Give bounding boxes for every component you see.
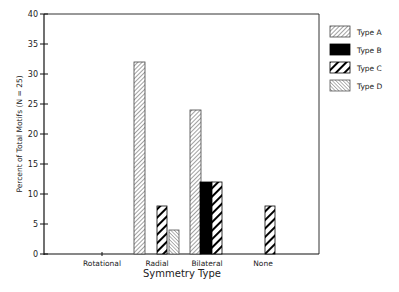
legend-swatch-solid-icon — [330, 44, 350, 55]
y-tick-label: 30 — [28, 70, 38, 79]
y-axis-title: Percent of Total Motifs (N = 25) — [15, 75, 24, 192]
y-tick-label: 40 — [28, 10, 38, 19]
legend-swatch-bold-stripes-icon — [330, 62, 350, 73]
y-tick-label: 5 — [33, 220, 38, 229]
bar-chart: 0 5 10 15 20 25 30 35 40 Percent of Tota… — [0, 0, 399, 292]
legend-item-type-a: Type A — [330, 26, 383, 37]
bars — [134, 62, 275, 254]
x-category-label: Bilateral — [191, 259, 222, 268]
legend-item-type-b: Type B — [330, 44, 382, 55]
y-tick-label: 10 — [28, 190, 38, 199]
bar-type-c-none — [265, 206, 275, 254]
bar-type-d-radial — [169, 230, 179, 254]
legend-item-type-c: Type C — [330, 62, 382, 73]
legend-swatch-reverse-hatch-icon — [330, 80, 350, 91]
bar-type-a-radial — [134, 62, 145, 254]
legend-item-type-d: Type D — [330, 80, 383, 91]
legend-swatch-fine-hatch-icon — [330, 26, 350, 37]
bar-type-b-bilateral — [200, 182, 212, 254]
y-ticks: 0 5 10 15 20 25 30 35 40 — [28, 10, 48, 259]
legend-label: Type C — [356, 64, 382, 73]
legend-label: Type D — [356, 82, 383, 91]
y-tick-label: 35 — [28, 40, 38, 49]
bar-type-c-bilateral — [212, 182, 222, 254]
plot-area — [44, 14, 319, 255]
y-tick-label: 25 — [28, 100, 38, 109]
x-category-label: Radial — [145, 259, 168, 268]
bar-type-c-radial — [157, 206, 167, 254]
x-category-label: None — [253, 259, 273, 268]
y-tick-label: 15 — [28, 160, 38, 169]
legend: Type A Type B Type C Type D — [330, 26, 383, 91]
y-tick-label: 0 — [33, 250, 38, 259]
x-category-labels: Rotational Radial Bilateral None — [83, 259, 273, 268]
x-axis-title: Symmetry Type — [143, 268, 221, 279]
x-category-label: Rotational — [83, 259, 121, 268]
bar-type-a-bilateral — [190, 110, 201, 254]
legend-label: Type A — [356, 28, 383, 37]
legend-label: Type B — [356, 46, 382, 55]
y-tick-label: 20 — [28, 130, 38, 139]
